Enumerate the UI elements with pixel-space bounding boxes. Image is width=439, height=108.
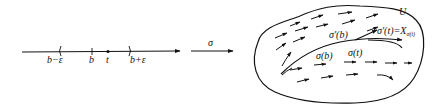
vector-field [275,12,412,82]
real-line-axis [22,46,180,56]
point-t-dot [106,50,109,53]
label-sigma-prime-t: σ′(t)=Xσ(t) [377,25,415,38]
label-sigma-t: σ(t) [348,47,363,59]
label-sigma-map: σ [208,37,214,48]
label-t: t [106,54,109,65]
label-b-plus-eps: b+ε [130,54,146,65]
region-u-boundary [254,5,423,103]
label-u: U [399,6,407,17]
label-sigma-b: σ(b) [316,50,333,62]
label-b: b [89,54,94,65]
diagram-canvas: b−ε b t b+ε σ U [0,0,439,108]
label-sigma-prime-b: σ′(b) [329,29,348,41]
label-b-minus-eps: b−ε [47,54,63,65]
